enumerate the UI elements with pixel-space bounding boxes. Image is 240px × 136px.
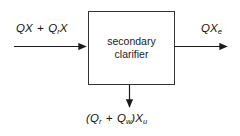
underflow-stream-label: (Qr + Qw)Xu	[86, 112, 147, 124]
effluent-base: QX	[201, 22, 218, 34]
effluent-stream-label: QXe	[201, 22, 222, 34]
influent-term-2-subscript: r	[57, 27, 60, 36]
underflow-term-1-base: Q	[90, 112, 99, 124]
influent-term-2-base: Q	[48, 22, 57, 34]
underflow-term-2-base: Q	[117, 112, 126, 124]
influent-operator: +	[33, 22, 48, 34]
influent-stream-label: QX + QrX	[16, 22, 68, 34]
underflow-term-3-subscript: u	[143, 117, 147, 126]
secondary-clarifier-diagram: secondary clarifier QX + QrX QXe (Qr + Q…	[0, 0, 240, 136]
influent-term-2-tail: X	[60, 22, 68, 34]
underflow-term-3-base: X	[135, 112, 143, 124]
underflow-term-2-subscript: w	[126, 117, 131, 126]
underflow-operator: +	[101, 112, 116, 124]
influent-term-1: QX	[16, 22, 33, 34]
unit-label-line-2: clarifier	[115, 48, 149, 61]
secondary-clarifier-box: secondary clarifier	[88, 11, 175, 85]
effluent-subscript: e	[218, 27, 222, 36]
unit-label-line-1: secondary	[107, 35, 155, 48]
